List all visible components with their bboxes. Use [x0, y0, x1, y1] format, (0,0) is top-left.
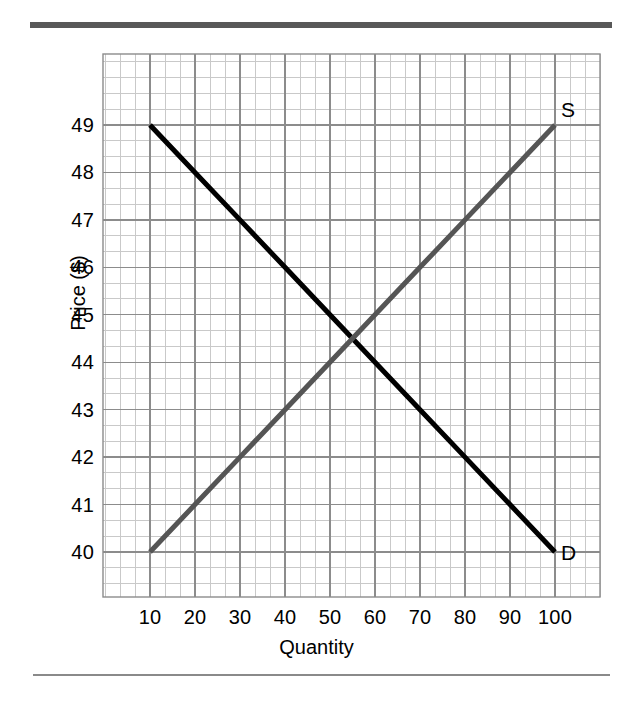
x-axis-tick-label: 100 — [529, 607, 581, 627]
grid-minor-lines — [103, 54, 600, 597]
y-axis-tick-label: 49 — [48, 115, 94, 135]
supply-demand-figure: 40414243444546474849 1020304050607080901… — [0, 0, 633, 708]
y-axis-tick-label: 48 — [48, 162, 94, 182]
x-axis-title: Quantity — [0, 636, 633, 658]
chart-plot-area — [0, 0, 633, 708]
y-axis-tick-label: 42 — [48, 447, 94, 467]
y-axis-tick-label: 40 — [48, 542, 94, 562]
y-axis-tick-label: 41 — [48, 495, 94, 515]
supply-curve-label: S — [561, 99, 575, 120]
demand-curve-label: D — [561, 542, 576, 563]
y-axis-title: Price ($) — [67, 223, 89, 363]
y-axis-tick-label: 43 — [48, 400, 94, 420]
series-lines — [150, 125, 555, 552]
